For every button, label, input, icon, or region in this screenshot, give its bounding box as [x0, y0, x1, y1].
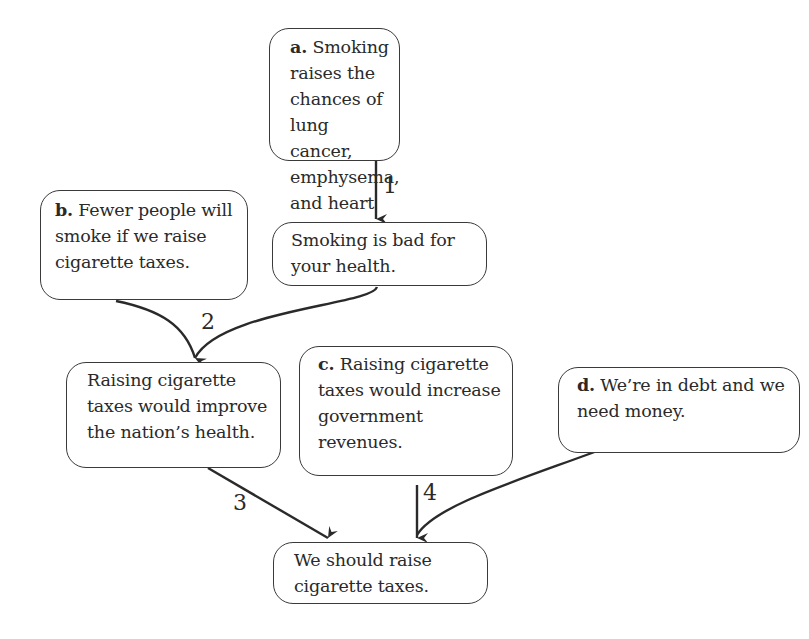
node-health-text: Smoking is bad for your health.	[291, 230, 455, 276]
node-d-text: We’re in debt and we need money.	[577, 375, 785, 421]
edge-2-label: 2	[201, 309, 215, 334]
node-b: b. Fewer people will smoke if we raise c…	[40, 190, 248, 300]
edge-1-label: 1	[383, 173, 397, 198]
node-health: Smoking is bad for your health.	[272, 222, 487, 286]
node-conclusion-text: We should raise cigarette taxes.	[294, 550, 432, 596]
node-d: d. We’re in debt and we need money.	[558, 367, 800, 453]
node-b-text: Fewer people will smoke if we raise ciga…	[55, 200, 232, 272]
edge-3-arrow	[208, 468, 328, 538]
node-d-tag: d.	[577, 375, 595, 395]
node-improve: Raising cigarette taxes would improve th…	[66, 362, 281, 468]
node-c-tag: c.	[318, 354, 334, 374]
node-improve-text: Raising cigarette taxes would improve th…	[87, 370, 267, 442]
node-conclusion: We should raise cigarette taxes.	[273, 542, 488, 604]
edge-2-arrow-from-b	[116, 301, 195, 358]
node-a-tag: a.	[290, 37, 307, 57]
edge-3-label: 3	[233, 490, 247, 515]
node-c: c. Raising cigarette taxes would increas…	[299, 346, 513, 476]
node-c-text: Raising cigarette taxes would increase g…	[318, 354, 501, 452]
edge-4-label: 4	[423, 480, 437, 505]
node-a: a. Smoking raises the chances of lung ca…	[269, 28, 400, 161]
node-b-tag: b.	[55, 200, 73, 220]
